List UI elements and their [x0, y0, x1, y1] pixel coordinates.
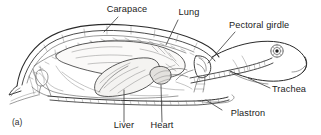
label-pectoral-girdle: Pectoral girdle — [229, 20, 289, 30]
label-liver: Liver — [114, 120, 134, 130]
label-heart: Heart — [151, 120, 174, 130]
label-carapace: Carapace — [107, 4, 148, 14]
figure-container: Carapace Lung Pectoral girdle Trachea Pl… — [0, 0, 321, 135]
label-trachea: Trachea — [272, 84, 307, 94]
turtle-anatomy-diagram: Carapace Lung Pectoral girdle Trachea Pl… — [0, 0, 321, 135]
label-plastron: Plastron — [231, 108, 266, 118]
eye — [271, 44, 283, 58]
figure-caption-label: (a) — [12, 117, 22, 127]
label-lung: Lung — [179, 7, 200, 17]
